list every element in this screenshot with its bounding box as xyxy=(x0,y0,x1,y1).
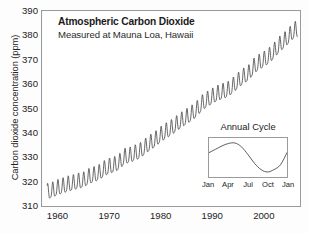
annual-cycle-line xyxy=(209,138,287,177)
chart-title: Atmospheric Carbon Dioxide xyxy=(58,16,194,29)
inset-chart-title: Annual Cycle xyxy=(208,121,288,132)
x-tick-label: 1980 xyxy=(141,210,181,221)
x-tick-label: 1960 xyxy=(37,210,77,221)
chart-title-block: Atmospheric Carbon Dioxide Measured at M… xyxy=(58,16,194,41)
inset-plot-area xyxy=(208,137,288,178)
x-tick-label: 2000 xyxy=(244,210,284,221)
annual-cycle-curve xyxy=(209,143,287,172)
chart-figure: Carbon dioxide concentration (ppm) 31032… xyxy=(0,0,309,233)
x-tick-label: 1990 xyxy=(192,210,232,221)
inset-x-tick-label: Jan xyxy=(275,180,301,189)
chart-subtitle: Measured at Mauna Loa, Hawaii xyxy=(58,29,194,42)
inset-x-axis-tick-labels: JanAprJulOctJan xyxy=(203,180,295,192)
x-tick-label: 1970 xyxy=(89,210,129,221)
